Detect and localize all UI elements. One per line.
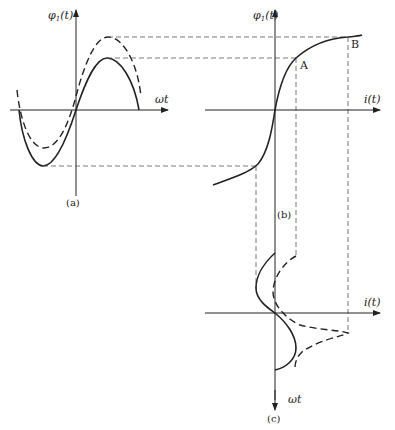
panel-c-y-axis-label: ωt: [288, 394, 301, 405]
panel-c-dashed-curve: [273, 256, 348, 368]
panel-a-solid-curve: [19, 58, 139, 166]
point-a-label: A: [300, 60, 308, 71]
panel-a-caption: (a): [66, 198, 80, 208]
point-b-label: B: [351, 39, 359, 50]
panel-a-y-axis-label: φ1(t): [48, 10, 73, 23]
panel-b: [205, 10, 380, 400]
panel-a-dashed-curve: [17, 37, 141, 148]
guide-lines: [43, 37, 348, 333]
figure-canvas: φ1(t) ωt (a) φ1(t) i(t) A B (b) i(t) ωt …: [0, 0, 395, 430]
panel-c-caption: (c): [267, 414, 280, 424]
figure-svg: [0, 0, 395, 430]
phi-argument: (t): [60, 9, 73, 22]
panel-c-x-axis-label: i(t): [364, 297, 381, 308]
phi-symbol: φ: [253, 9, 261, 22]
panel-b-y-axis-label: φ1(t): [253, 10, 278, 23]
panel-a: [10, 10, 168, 196]
panel-c: [205, 253, 380, 410]
phi-symbol: φ: [48, 9, 56, 22]
panel-b-caption: (b): [277, 210, 291, 220]
panel-b-x-axis-label: i(t): [364, 94, 381, 105]
panel-a-x-axis-label: ωt: [155, 94, 168, 105]
panel-c-solid-curve: [256, 253, 296, 370]
phi-argument: (t): [265, 9, 278, 22]
